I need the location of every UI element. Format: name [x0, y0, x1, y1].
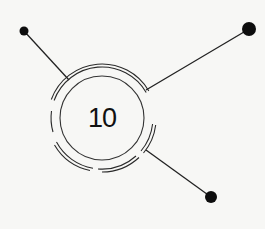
node-bottom-right-dot: [205, 191, 217, 203]
center-value-label: 10: [62, 102, 142, 134]
node-top-right-dot: [242, 22, 256, 36]
diagram-canvas: 10: [0, 0, 265, 229]
connector-top-right: [146, 29, 249, 90]
connector-bottom-right: [146, 150, 211, 197]
connector-top-left: [24, 31, 69, 80]
node-top-left-dot: [20, 27, 29, 36]
